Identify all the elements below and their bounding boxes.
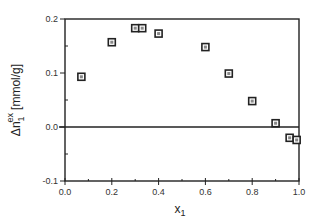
x-tick-label: 0.4: [152, 187, 165, 197]
x-axis-label: x1: [174, 202, 185, 218]
plot-frame: [59, 19, 299, 181]
y-axis-label: Δn1ex[mmol/g]: [5, 64, 26, 136]
y-tick-labels: -0.10.00.10.2: [42, 14, 58, 186]
x-axis-label-sub: 1: [180, 208, 185, 218]
data-point-marker-center: [227, 72, 230, 75]
data-point-marker-center: [295, 138, 298, 141]
y-tick-label: 0.2: [45, 14, 58, 24]
y-axis-label-unit: [mmol/g]: [9, 64, 23, 110]
plot-border: [65, 19, 299, 181]
scatter-chart: 0.00.20.40.60.81.0 -0.10.00.10.2 x1 Δn1e…: [0, 0, 319, 219]
data-markers: [78, 25, 300, 144]
y-tick-label: 0.0: [45, 122, 58, 132]
x-tick-label: 0.8: [246, 187, 259, 197]
x-tick-label: 0.0: [59, 187, 72, 197]
data-point-marker-center: [134, 27, 137, 30]
y-tick-label: 0.1: [45, 68, 58, 78]
y-tick-label: -0.1: [42, 176, 58, 186]
x-tick-label: 1.0: [293, 187, 306, 197]
data-point-marker-center: [141, 27, 144, 30]
y-axis-label-sub: 1: [16, 116, 26, 121]
data-point-marker-center: [274, 122, 277, 125]
y-axis-label-main: Δn: [9, 121, 23, 136]
x-tick-label: 0.2: [106, 187, 119, 197]
x-tick-labels: 0.00.20.40.60.81.0: [59, 187, 306, 197]
data-point-marker-center: [110, 41, 113, 44]
data-point-marker-center: [288, 136, 291, 139]
data-point-marker-center: [251, 100, 254, 103]
data-point-marker-center: [204, 46, 207, 49]
data-point-marker-center: [80, 75, 83, 78]
y-axis-label-sup: ex: [5, 112, 15, 122]
x-tick-label: 0.6: [199, 187, 212, 197]
data-point-marker-center: [157, 32, 160, 35]
axis-ticks: [60, 19, 299, 185]
